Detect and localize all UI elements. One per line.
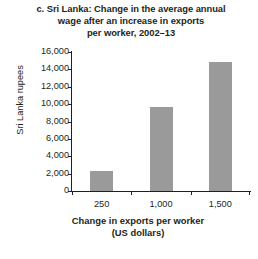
- y-axis-tick-label: 2,000: [46, 168, 69, 179]
- y-axis-tick-label: 14,000: [41, 63, 69, 74]
- x-axis-label-line-2: (US dollars): [24, 227, 252, 239]
- y-axis-tick-label: 16,000: [41, 46, 69, 57]
- x-axis-tick-mark: [72, 191, 73, 195]
- y-axis-tick-label: 6,000: [46, 133, 69, 144]
- y-axis-tick-label: 4,000: [46, 150, 69, 161]
- y-axis-tick-label: 8,000: [46, 116, 69, 127]
- x-axis-label-line-1: Change in exports per worker: [24, 215, 252, 227]
- chart-title-line-1: c. Sri Lanka: Change in the average annu…: [14, 3, 248, 15]
- bar: [209, 62, 232, 191]
- chart-figure: c. Sri Lanka: Change in the average annu…: [0, 0, 258, 259]
- y-axis-tick-label: 0: [64, 185, 69, 196]
- x-axis-tick-mark: [131, 191, 132, 195]
- chart-title-line-3: per worker, 2002–13: [14, 27, 248, 39]
- chart-title-line-2: wage after an increase in exports: [14, 15, 248, 27]
- y-axis-tick-label: 10,000: [41, 98, 69, 109]
- chart-title: c. Sri Lanka: Change in the average annu…: [14, 3, 248, 40]
- x-axis-category-label: 1,000: [136, 199, 186, 210]
- x-axis-label: Change in exports per worker (US dollars…: [24, 215, 252, 240]
- y-axis-tick-label: 12,000: [41, 81, 69, 92]
- x-axis-tick-mark: [191, 191, 192, 195]
- x-axis-category-label: 1,500: [195, 199, 245, 210]
- y-axis-label: Sri Lanka rupees: [15, 30, 25, 170]
- x-axis-line: [71, 191, 251, 192]
- plot-area: 02,0004,0006,0008,00010,00012,00014,0001…: [72, 52, 250, 191]
- bar: [150, 107, 173, 191]
- bar: [90, 171, 113, 191]
- x-axis-category-label: 250: [77, 199, 127, 210]
- x-axis-tick-mark: [249, 191, 250, 195]
